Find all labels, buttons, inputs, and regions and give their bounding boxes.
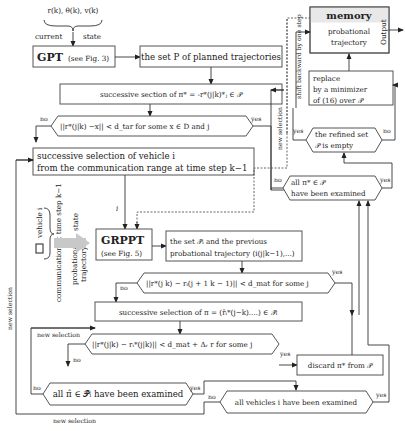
gpt-ref: (see Fig. 3) bbox=[68, 54, 109, 63]
refined-line1: the refined set bbox=[315, 130, 368, 139]
set-pi-line1: the set 𝒫̃ᵢ and the previous bbox=[170, 237, 267, 246]
arrow-i-label: i bbox=[116, 204, 118, 213]
all-pi-hat-yes: yes bbox=[189, 384, 200, 392]
current-state-input: r(k), θ(k), v(k) current state bbox=[35, 6, 102, 46]
replace-box: replace by a minimizer of (16) over 𝒫 bbox=[309, 71, 393, 105]
communication-side: vehicle i communication at time step k−1… bbox=[35, 183, 88, 302]
all-vehicles-decision: all vehicles i have been examined no yes bbox=[208, 391, 386, 413]
set-pi-line2: probational trajectory (i(j|k−1),...) bbox=[170, 249, 295, 258]
vehicle-selection-box: successive selection of vehicle i from t… bbox=[33, 148, 254, 175]
state-variables: r(k), θ(k), v(k) bbox=[48, 6, 99, 15]
all-pi-star-decision: all π* ∈ 𝒫 have been examined no yes bbox=[274, 176, 390, 200]
all-pi-star-yes: yes bbox=[379, 176, 390, 184]
successive-pi-star-box: successive section of π* = -r*(j|k)*ⱼ ∈ … bbox=[60, 84, 282, 104]
all-pi-hat-no: no bbox=[33, 384, 41, 391]
memory-line1: probational bbox=[328, 27, 371, 36]
refined-no: no bbox=[383, 127, 391, 134]
memory-line2: trajectory bbox=[331, 38, 368, 47]
all-pi-star-line2: have been examined bbox=[291, 189, 366, 198]
decision-dtar-no: no bbox=[40, 115, 48, 122]
successive-pi-text: successive selection of π = (r̂ᵢ*(j−k)..… bbox=[119, 308, 278, 317]
brace-icon bbox=[44, 20, 102, 31]
current-label: current bbox=[35, 32, 62, 41]
decision-dmat2-no: no bbox=[73, 356, 81, 363]
memory-box: memory probational trajectory bbox=[310, 7, 389, 53]
new-selection-bottom-label: new selection bbox=[53, 417, 96, 424]
vehicle-icon bbox=[36, 244, 43, 253]
memory-title: memory bbox=[326, 10, 372, 21]
all-pi-star-no: no bbox=[274, 176, 282, 183]
vehicle-selection-line2: from the communication range at time ste… bbox=[37, 163, 247, 173]
replace-line3: of (16) over 𝒫 bbox=[313, 96, 364, 105]
grppt-ref: (see Fig. 5) bbox=[101, 249, 142, 258]
probational-side-label2: trajectory bbox=[79, 245, 88, 282]
gpt-title: GPT bbox=[37, 51, 64, 64]
set-pi-box: the set 𝒫̃ᵢ and the previous probational… bbox=[166, 231, 302, 261]
state-side-label: state bbox=[71, 213, 80, 231]
all-pi-star-line1: all π* ∈ 𝒫 bbox=[291, 178, 326, 187]
all-vehicles-text: all vehicles i have been examined bbox=[235, 398, 358, 407]
new-selection-inner-label: new selection bbox=[37, 331, 80, 338]
grppt-box: GRPPT (see Fig. 5) bbox=[96, 229, 152, 260]
replace-line1: replace bbox=[313, 74, 340, 83]
new-selection-vertical-label: new selection bbox=[276, 107, 283, 150]
decision-dmat2-yes: yes bbox=[279, 350, 290, 358]
discard-text: discard π* from 𝒫 bbox=[308, 361, 373, 370]
decision-dmat1-text: ||r*(j k) − rᵢ(j + 1 k − 1)|| < d_mat fo… bbox=[146, 279, 309, 288]
gpt-box: GPT (see Fig. 3) bbox=[33, 46, 115, 67]
new-selection-left-label: new selection bbox=[6, 287, 13, 330]
brace-icon bbox=[44, 208, 54, 259]
decision-dtar-yes: yes bbox=[250, 115, 261, 123]
all-pi-hat-text: all π̂ ∈ 𝒫̃ᵢ have been examined bbox=[53, 389, 184, 399]
decision-dtar: ||r*(j|k) −x|| < d_tar for some x ∈ D an… bbox=[40, 115, 261, 136]
grppt-title: GRPPT bbox=[101, 234, 145, 247]
decision-dmat1-no: no bbox=[120, 284, 128, 291]
decision-dmat1: ||r*(j k) − rᵢ(j + 1 k − 1)|| < d_mat fo… bbox=[120, 268, 342, 293]
refined-set-decision: the refined set 𝒫 is empty yes no bbox=[292, 127, 391, 152]
probational-side-label1: probational bbox=[70, 242, 79, 285]
refined-line2: 𝒫 is empty bbox=[315, 141, 354, 150]
decision-dmat2: ||r*(j|k) − rᵢ*(j|k)|| < d_mat + Δᵣ r fo… bbox=[73, 334, 290, 363]
vehicle-selection-line1: successive selection of vehicle i bbox=[37, 151, 175, 161]
all-vehicles-yes: yes bbox=[375, 391, 386, 399]
decision-dmat1-yes: yes bbox=[331, 268, 342, 276]
planned-set-box: the set P of planned trajectories bbox=[140, 46, 282, 67]
all-pi-hat-decision: all π̂ ∈ 𝒫̃ᵢ have been examined no yes bbox=[33, 383, 200, 405]
all-vehicles-no: no bbox=[208, 393, 216, 400]
refined-yes: yes bbox=[292, 127, 303, 135]
discard-box: discard π* from 𝒫 bbox=[297, 355, 383, 375]
decision-dmat2-text: ||r*(j|k) − rᵢ*(j|k)|| < d_mat + Δᵣ r fo… bbox=[92, 340, 252, 349]
decision-dtar-text: ||r*(j|k) −x|| < d_tar for some x ∈ D an… bbox=[60, 122, 209, 131]
shift-backward-label: shift backward by one step bbox=[295, 14, 303, 99]
replace-line2: by a minimizer bbox=[313, 85, 368, 94]
flowchart: r(k), θ(k), v(k) current state GPT (see … bbox=[0, 0, 405, 431]
planned-set-text: the set P of planned trajectories bbox=[141, 52, 281, 62]
successive-pi-box: successive selection of π = (r̂ᵢ*(j−k)..… bbox=[95, 302, 302, 321]
successive-pi-star-text: successive section of π* = -r*(j|k)*ⱼ ∈ … bbox=[100, 90, 243, 99]
vehicle-label: vehicle i bbox=[35, 207, 44, 239]
output-label: Output bbox=[379, 19, 388, 45]
state-label: state bbox=[83, 32, 101, 41]
